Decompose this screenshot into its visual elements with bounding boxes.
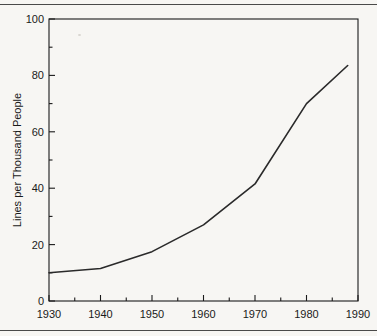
y-axis: 020406080100 (26, 13, 55, 307)
x-tick-label: 1950 (140, 308, 164, 320)
y-tick-label: 0 (38, 295, 44, 307)
x-tick-label: 1980 (294, 308, 318, 320)
y-tick-label: 80 (32, 69, 44, 81)
x-tick-label: 1930 (37, 308, 61, 320)
y-axis-title: Lines per Thousand People (11, 93, 23, 227)
chart-canvas: 020406080100 193019401950196019701980199… (0, 0, 377, 336)
y-tick-label: 60 (32, 126, 44, 138)
x-tick-label: 1970 (243, 308, 267, 320)
line-chart-figure: 020406080100 193019401950196019701980199… (0, 0, 377, 336)
y-axis-tick-labels: 020406080100 (26, 13, 44, 307)
scanned-page: 020406080100 193019401950196019701980199… (0, 0, 377, 336)
x-axis: 1930194019501960197019801990 (37, 295, 370, 320)
y-tick-label: 100 (26, 13, 44, 25)
x-tick-label: 1990 (346, 308, 370, 320)
y-tick-label: 20 (32, 239, 44, 251)
y-tick-label: 40 (32, 182, 44, 194)
x-axis-major-ticks (49, 295, 358, 301)
x-axis-tick-labels: 1930194019501960197019801990 (37, 308, 370, 320)
plot-frame (49, 19, 358, 301)
x-tick-label: 1940 (88, 308, 112, 320)
x-tick-label: 1960 (191, 308, 215, 320)
data-series-line (49, 66, 348, 273)
